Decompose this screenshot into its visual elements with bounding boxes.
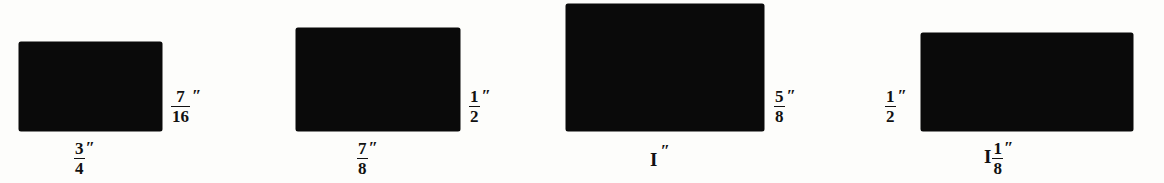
figure-4-width-label: I 1 8 ″	[984, 140, 1013, 178]
figure-4: 1 2 ″ I 1 8 ″	[0, 0, 1164, 183]
figure-4-height-fraction: 1 2	[885, 88, 896, 126]
figure-4-height-numerator: 1	[885, 88, 896, 106]
figure-4-height-label: 1 2 ″	[885, 88, 907, 126]
figure-4-width-fraction: 1 8	[992, 140, 1003, 178]
figure-4-width-inch-mark: ″	[1003, 139, 1013, 156]
figure-4-width-whole: I	[984, 140, 992, 166]
figure-4-width-numerator: 1	[992, 140, 1003, 158]
figure-4-width-denominator: 8	[992, 158, 1003, 177]
figure-plate: 7 16 ″ 3 4 ″ 1 2 ″ 7 8	[0, 0, 1164, 183]
figure-4-height-denominator: 2	[885, 106, 896, 125]
figure-4-height-inch-mark: ″	[896, 87, 907, 104]
figure-4-rectangle	[921, 33, 1133, 131]
